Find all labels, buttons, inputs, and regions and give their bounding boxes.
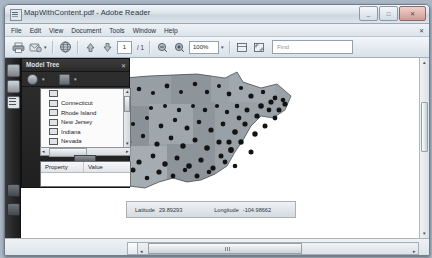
scroll-thumb[interactable]	[124, 96, 130, 112]
list-item[interactable]	[41, 89, 130, 99]
visibility-checkbox[interactable]	[49, 90, 58, 97]
list-item[interactable]: Connecticut	[41, 99, 130, 109]
toolbar-separator	[77, 41, 78, 54]
pages-thumbnail-icon[interactable]	[7, 64, 20, 77]
scroll-thumb[interactable]	[421, 102, 428, 152]
list-item[interactable]: New Jersey	[41, 118, 130, 128]
model-tree-close-icon[interactable]: ✕	[121, 62, 126, 69]
previous-page-icon[interactable]	[83, 40, 97, 54]
scroll-thumb[interactable]	[148, 243, 302, 254]
list-item[interactable]: Indiana	[41, 127, 130, 137]
list-item[interactable]: Nevada	[41, 137, 130, 147]
title-bar: MapWithContent.pdf - Adobe Reader _ □ ✕	[5, 5, 429, 24]
model-tree-list[interactable]: Connecticut Rhode Island New Jersey	[40, 88, 131, 148]
pdf-document-icon	[10, 9, 22, 21]
scroll-down-icon[interactable]: ▾	[420, 229, 429, 238]
properties-header-row: Property Value	[41, 162, 130, 173]
model-view-icon[interactable]	[27, 74, 38, 85]
visibility-checkbox[interactable]	[49, 109, 58, 116]
visibility-checkbox[interactable]	[49, 128, 58, 135]
toolbar-separator	[52, 41, 53, 54]
model-tree-panel[interactable]: Model Tree ✕ ▾ ▾	[21, 58, 130, 188]
scroll-right-icon[interactable]: ▸	[413, 246, 416, 256]
column-header-property: Property	[41, 162, 84, 172]
toolbar-separator	[229, 41, 230, 54]
minimize-icon: _	[367, 11, 370, 17]
viewer-vertical-scrollbar[interactable]: ▴ ▾	[419, 58, 429, 238]
menu-item-view[interactable]: View	[49, 27, 63, 34]
next-page-icon[interactable]	[100, 40, 114, 54]
window-title: MapWithContent.pdf - Adobe Reader	[24, 8, 150, 17]
adobe-reader-window: MapWithContent.pdf - Adobe Reader _ □ ✕ …	[4, 4, 430, 256]
main-toolbar: ▾ 1 / 1 100% ▾ Find	[5, 37, 429, 58]
list-item-label: Nevada	[61, 138, 82, 144]
window-controls: _ □ ✕	[359, 6, 426, 21]
model-tree-header: Model Tree ✕	[22, 59, 129, 72]
column-header-value: Value	[84, 162, 130, 172]
navigation-pane-rail	[5, 58, 21, 238]
printer-icon[interactable]	[11, 40, 25, 54]
email-caret-icon[interactable]: ▾	[44, 44, 47, 50]
zoom-out-icon[interactable]	[155, 40, 169, 54]
signatures-icon[interactable]	[7, 203, 20, 216]
menu-item-tools[interactable]: Tools	[109, 27, 124, 34]
menu-item-window[interactable]: Window	[133, 27, 156, 34]
minimize-button[interactable]: _	[359, 6, 378, 21]
maximize-button[interactable]: □	[379, 6, 398, 21]
document-body: Analysis Latitude 29.892	[5, 58, 429, 238]
menu-item-help[interactable]: Help	[164, 27, 178, 34]
zoom-caret-icon[interactable]: ▾	[221, 44, 224, 50]
email-document-icon[interactable]	[28, 40, 42, 54]
bookmarks-icon[interactable]	[7, 80, 20, 93]
render-mode-caret-icon[interactable]: ▾	[74, 77, 77, 82]
menu-item-file[interactable]: File	[11, 27, 22, 34]
model-view-caret-icon[interactable]: ▾	[42, 77, 45, 82]
scroll-left-icon[interactable]: ◂	[140, 246, 143, 256]
scroll-left-icon[interactable]: ◂	[42, 148, 45, 155]
menu-item-document[interactable]: Document	[71, 27, 101, 34]
model-tree-toolbar: ▾ ▾	[22, 72, 129, 87]
list-item-label: New Jersey	[61, 119, 92, 125]
coordinate-readout: Latitude 29.89293 Longitude -104.98662	[126, 201, 296, 218]
latitude-value: 29.89293	[159, 207, 182, 213]
model-tree-properties: Property Value	[40, 161, 131, 187]
zoom-in-icon[interactable]	[172, 40, 186, 54]
scroll-right-icon[interactable]: ▸	[126, 148, 129, 155]
latitude-label: Latitude	[135, 207, 155, 213]
menu-item-edit[interactable]: Edit	[30, 27, 41, 34]
scroll-up-icon[interactable]: ▴	[420, 58, 429, 67]
close-document-button[interactable]: ✕	[419, 27, 424, 34]
fit-width-icon[interactable]	[235, 40, 249, 54]
maximize-icon: □	[387, 11, 391, 17]
zoom-level-input[interactable]: 100%	[189, 41, 219, 54]
longitude-value: -104.98662	[243, 207, 271, 213]
globe-icon[interactable]	[58, 40, 72, 54]
menu-bar: File Edit View Document Tools Window Hel…	[5, 24, 429, 37]
list-item-label: Indiana	[61, 129, 81, 135]
layers-icon[interactable]	[7, 96, 20, 109]
model-tree-vertical-scrollbar[interactable]: ▴ ▾	[123, 89, 130, 147]
model-tree-title: Model Tree	[26, 61, 59, 68]
attachments-icon[interactable]	[7, 184, 20, 197]
pdf-page: Analysis Latitude 29.892	[21, 58, 420, 238]
toolbar-separator	[149, 41, 150, 54]
list-item-label: Connecticut	[61, 100, 93, 106]
viewer-horizontal-scrollbar[interactable]: ◂ ▸	[137, 242, 419, 255]
close-icon: ✕	[410, 11, 415, 17]
scroll-up-icon[interactable]: ▴	[124, 89, 130, 95]
longitude-label: Longitude	[214, 207, 239, 213]
scroll-thumb-grip	[225, 247, 230, 251]
visibility-checkbox[interactable]	[49, 100, 58, 107]
list-item[interactable]: Rhode Island	[41, 108, 130, 118]
pdf-viewer[interactable]: Analysis Latitude 29.892	[21, 58, 429, 238]
close-button[interactable]: ✕	[399, 6, 426, 21]
page-number-input[interactable]: 1	[117, 41, 132, 54]
fit-page-icon[interactable]	[252, 40, 266, 54]
page-total-label: / 1	[137, 44, 144, 51]
render-mode-icon[interactable]	[59, 74, 70, 85]
visibility-checkbox[interactable]	[49, 119, 58, 126]
visibility-checkbox[interactable]	[49, 138, 58, 145]
list-item-label	[61, 91, 63, 97]
find-input[interactable]: Find	[272, 40, 353, 54]
list-item-label: Rhode Island	[61, 110, 96, 116]
